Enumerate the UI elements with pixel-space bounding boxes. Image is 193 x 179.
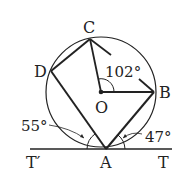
geometry-diagram: C D O B A T′ T 102° 55° 47° (0, 0, 193, 179)
angle-label-left: 55° (21, 117, 48, 135)
label-O: O (95, 98, 108, 117)
center-point (99, 90, 104, 95)
angle-label-right: 47° (145, 128, 172, 146)
label-D: D (34, 62, 47, 81)
label-B: B (159, 83, 171, 102)
label-T-prime: T′ (26, 153, 41, 172)
label-T: T (158, 153, 169, 172)
leader-55 (49, 125, 84, 138)
segment-CD (51, 39, 90, 71)
label-C: C (83, 18, 95, 37)
label-A: A (99, 153, 112, 172)
angle-label-COB: 102° (105, 63, 141, 81)
segment-CB-end (139, 79, 154, 92)
